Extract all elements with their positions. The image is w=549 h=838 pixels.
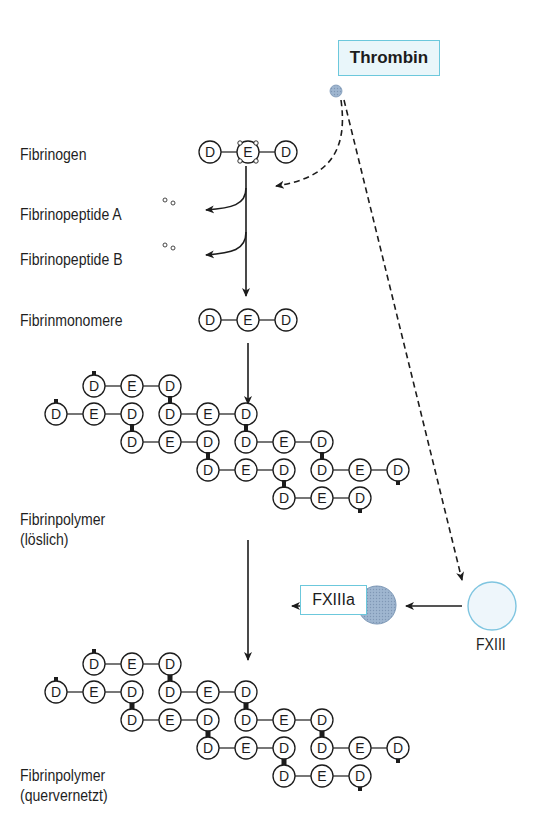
domain-e-node: E bbox=[159, 431, 181, 453]
domain-e-node: E bbox=[273, 431, 295, 453]
domain-d-node: D bbox=[199, 141, 221, 163]
domain-d-node: D bbox=[311, 431, 333, 453]
domain-e-node: E bbox=[83, 681, 105, 703]
domain-e-node: E bbox=[235, 737, 257, 759]
domain-e-node: E bbox=[273, 709, 295, 731]
domain-e-node: E bbox=[349, 459, 371, 481]
svg-text:E: E bbox=[241, 740, 250, 756]
domain-d-node: D bbox=[83, 653, 105, 675]
svg-text:E: E bbox=[165, 434, 174, 450]
domain-d-node: D bbox=[45, 681, 67, 703]
svg-text:D: D bbox=[241, 712, 251, 728]
svg-text:E: E bbox=[243, 144, 252, 160]
svg-text:D: D bbox=[203, 740, 213, 756]
domain-e-node: E bbox=[311, 765, 333, 787]
svg-text:E: E bbox=[127, 378, 136, 394]
domain-e-node: E bbox=[197, 681, 219, 703]
svg-text:D: D bbox=[317, 434, 327, 450]
domain-e-node: E bbox=[83, 403, 105, 425]
domain-d-node: D bbox=[197, 709, 219, 731]
label-fibrinopeptide-a: Fibrinopeptide A bbox=[20, 205, 122, 225]
label-fibrinpolymer-soluble: Fibrinpolymer bbox=[20, 510, 105, 530]
svg-text:D: D bbox=[51, 406, 61, 422]
fibrinopeptide-site-icon bbox=[238, 159, 242, 163]
domain-d-node: D bbox=[311, 709, 333, 731]
svg-text:E: E bbox=[355, 740, 364, 756]
domain-d-node: D bbox=[273, 737, 295, 759]
svg-text:D: D bbox=[355, 768, 365, 784]
label-fibrinogen: Fibrinogen bbox=[20, 145, 87, 165]
label-fibrinpolymer-soluble-qualifier: (löslich) bbox=[20, 530, 69, 550]
domain-d-node: D bbox=[275, 309, 297, 331]
thrombin-label: Thrombin bbox=[338, 40, 440, 76]
svg-text:D: D bbox=[279, 462, 289, 478]
domain-d-node: D bbox=[159, 653, 181, 675]
thrombin-particle-icon bbox=[330, 85, 342, 97]
svg-text:D: D bbox=[241, 684, 251, 700]
domain-d-node: D bbox=[197, 431, 219, 453]
domain-d-node: D bbox=[311, 737, 333, 759]
svg-text:E: E bbox=[203, 684, 212, 700]
svg-text:D: D bbox=[127, 712, 137, 728]
svg-text:D: D bbox=[205, 312, 215, 328]
release-fibrinopeptide-b-arrow bbox=[206, 232, 246, 255]
domain-d-node: D bbox=[83, 375, 105, 397]
domain-e-node: E bbox=[235, 459, 257, 481]
svg-text:E: E bbox=[127, 656, 136, 672]
label-fibrinmonomere: Fibrinmonomere bbox=[20, 311, 123, 331]
domain-e-node: E bbox=[237, 309, 259, 331]
domain-e-node: E bbox=[121, 375, 143, 397]
domain-d-node: D bbox=[273, 459, 295, 481]
domain-d-node: D bbox=[121, 709, 143, 731]
svg-text:E: E bbox=[317, 768, 326, 784]
fibrinmonomer-molecule: DED bbox=[199, 309, 297, 331]
domain-d-node: D bbox=[121, 403, 143, 425]
domain-d-node: D bbox=[159, 681, 181, 703]
domain-d-node: D bbox=[387, 737, 409, 759]
label-fibrinpolymer-crosslinked: Fibrinpolymer bbox=[20, 766, 105, 786]
domain-d-node: D bbox=[387, 459, 409, 481]
domain-d-node: D bbox=[235, 681, 257, 703]
domain-d-node: D bbox=[273, 765, 295, 787]
svg-text:E: E bbox=[279, 712, 288, 728]
domain-d-node: D bbox=[349, 487, 371, 509]
domain-e-node: E bbox=[197, 403, 219, 425]
svg-text:D: D bbox=[165, 406, 175, 422]
svg-text:E: E bbox=[279, 434, 288, 450]
fibrinopeptide-b-dots-icon bbox=[163, 243, 175, 250]
fibrinopeptide-site-icon bbox=[238, 141, 242, 145]
svg-text:D: D bbox=[205, 144, 215, 160]
svg-text:D: D bbox=[127, 434, 137, 450]
svg-text:E: E bbox=[243, 312, 252, 328]
svg-text:E: E bbox=[355, 462, 364, 478]
svg-text:D: D bbox=[51, 684, 61, 700]
fxiii-sphere-icon bbox=[468, 582, 516, 630]
fibrinogen-molecule: DED bbox=[199, 141, 297, 163]
svg-text:D: D bbox=[203, 434, 213, 450]
domain-d-node: D bbox=[235, 431, 257, 453]
domain-d-node: D bbox=[275, 141, 297, 163]
svg-text:D: D bbox=[281, 144, 291, 160]
svg-text:D: D bbox=[279, 768, 289, 784]
svg-text:E: E bbox=[241, 462, 250, 478]
fxiii-label: FXIII bbox=[476, 635, 506, 655]
domain-d-node: D bbox=[197, 459, 219, 481]
domain-d-node: D bbox=[235, 709, 257, 731]
label-fibrinopeptide-b: Fibrinopeptide B bbox=[20, 250, 123, 270]
svg-text:D: D bbox=[127, 406, 137, 422]
svg-text:D: D bbox=[393, 462, 403, 478]
domain-d-node: D bbox=[45, 403, 67, 425]
svg-text:D: D bbox=[281, 312, 291, 328]
svg-text:D: D bbox=[393, 740, 403, 756]
domain-e-node: E bbox=[311, 487, 333, 509]
domain-d-node: D bbox=[121, 681, 143, 703]
svg-text:D: D bbox=[317, 740, 327, 756]
svg-text:D: D bbox=[241, 434, 251, 450]
domain-e-node: E bbox=[121, 653, 143, 675]
domain-d-node: D bbox=[159, 403, 181, 425]
svg-text:E: E bbox=[165, 712, 174, 728]
svg-text:D: D bbox=[279, 740, 289, 756]
svg-text:D: D bbox=[317, 462, 327, 478]
fibrinopeptide-site-icon bbox=[254, 159, 258, 163]
svg-text:D: D bbox=[89, 378, 99, 394]
